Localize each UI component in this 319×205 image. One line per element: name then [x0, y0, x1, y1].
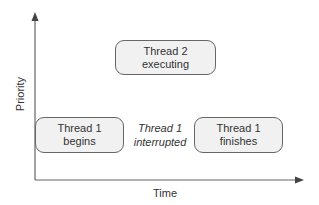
y-axis-label: Priority	[14, 69, 26, 119]
thread-1-finishes-box: Thread 1 finishes	[194, 117, 283, 153]
annotation-line2: interrupted	[128, 135, 192, 149]
thread-1-begins-box: Thread 1 begins	[35, 117, 124, 153]
y-axis-arrow-icon	[32, 12, 39, 21]
thread-1-interrupted-annotation: Thread 1 interrupted	[128, 121, 192, 149]
box-line1: Thread 2	[143, 45, 187, 58]
x-axis-arrow-icon	[295, 177, 304, 184]
box-line2: executing	[142, 58, 189, 71]
annotation-line1: Thread 1	[128, 121, 192, 135]
box-line1: Thread 1	[57, 122, 101, 135]
thread-2-executing-box: Thread 2 executing	[115, 40, 216, 75]
box-line2: begins	[63, 135, 95, 148]
x-axis-label: Time	[153, 187, 177, 199]
box-line1: Thread 1	[216, 122, 260, 135]
box-line2: finishes	[220, 135, 257, 148]
axes	[0, 0, 319, 205]
